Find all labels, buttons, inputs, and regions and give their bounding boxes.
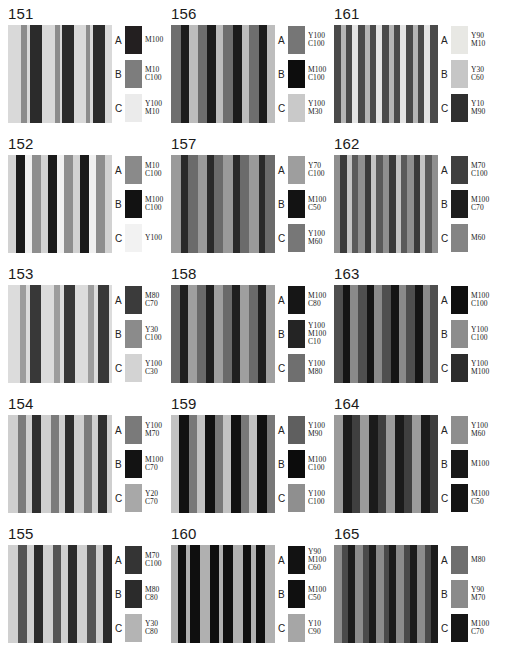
panel: 159AY100 M90BM100 C100CY100 C100 (171, 396, 334, 526)
legend-color-chip (288, 580, 305, 608)
legend: AM80 C70BY30 C100CY100 C30 (115, 285, 169, 383)
legend: AM70 C100BM80 C80CY30 C80 (115, 545, 169, 643)
legend-row: AM100 C100 (441, 285, 498, 315)
legend-color-notation: M60 (471, 234, 498, 242)
panel-number: 160 (171, 526, 332, 543)
legend-color-notation: M10 C100 (145, 162, 169, 178)
legend-row: BM100 C70 (441, 189, 498, 219)
legend-color-notation: M100 C100 (308, 456, 332, 472)
legend-color-notation: Y30 C100 (145, 326, 169, 342)
legend-color-notation: M100 (145, 36, 169, 44)
legend-key-label: A (278, 555, 288, 566)
panel: 153AM80 C70BY30 C100CY100 C30 (8, 266, 171, 396)
legend-color-notation: Y100 M30 (308, 100, 332, 116)
legend: AY100 C100BM100 C100CY100 M30 (278, 25, 332, 123)
legend-row: CY30 C80 (115, 613, 169, 643)
legend-key-label: B (278, 329, 288, 340)
panel-body: AY100 C100BM100 C100CY100 M30 (171, 25, 332, 123)
legend-color-chip (288, 60, 305, 88)
legend-row: BM100 C100 (278, 59, 332, 89)
legend-color-chip (288, 546, 305, 574)
legend-key-label: B (441, 459, 451, 470)
panel-number: 156 (171, 6, 332, 23)
legend-color-chip (288, 320, 305, 348)
legend-color-notation: M100 C70 (471, 620, 498, 636)
legend-row: CY100 M60 (278, 223, 332, 253)
legend-key-label: B (278, 589, 288, 600)
legend: AY90 M10BY30 C60CY10 M90 (441, 25, 498, 123)
legend-color-chip (288, 156, 305, 184)
legend: AY70 C100BM100 C50CY100 M60 (278, 155, 332, 253)
stripe-pattern-swatch (8, 545, 112, 643)
panel-body: AM70 C100BM100 C70CM60 (334, 155, 498, 253)
legend-row: BM100 (441, 449, 498, 479)
legend-color-chip (451, 224, 468, 252)
legend-row: AM80 (441, 545, 498, 575)
legend-row: AY90 M100 C60 (278, 545, 332, 575)
legend-color-chip (125, 60, 142, 88)
panel: 161AY90 M10BY30 C60CY10 M90 (334, 6, 500, 136)
legend-color-notation: Y90 M10 (471, 32, 498, 48)
legend-row: AY90 M10 (441, 25, 498, 55)
legend-key-label: A (278, 35, 288, 46)
legend-key-label: C (278, 233, 288, 244)
legend: AM100 C100BY100 C100CY100 M100 (441, 285, 498, 383)
legend-color-notation: Y100 C30 (145, 360, 169, 376)
legend-key-label: A (115, 35, 125, 46)
legend-color-notation: M70 C100 (145, 552, 169, 568)
chart-sheet: 151AM100BM10 C100CY100 M10156AY100 C100B… (0, 0, 506, 671)
legend: AY100 M60BM100CM100 C50 (441, 415, 498, 513)
panel-body: AY100 M90BM100 C100CY100 C100 (171, 415, 332, 513)
legend-color-chip (451, 156, 468, 184)
legend-color-notation: M100 (471, 460, 498, 468)
panel-number: 153 (8, 266, 169, 283)
legend-color-notation: M100 C100 (145, 196, 169, 212)
panel: 165AM80BY90 M70CM100 C70 (334, 526, 500, 656)
legend-color-chip (288, 354, 305, 382)
legend-key-label: C (441, 363, 451, 374)
legend-color-chip (125, 286, 142, 314)
legend-key-label: A (115, 295, 125, 306)
panel-number: 151 (8, 6, 169, 23)
legend-color-chip (125, 320, 142, 348)
legend-color-notation: M80 C70 (145, 292, 169, 308)
legend-key-label: B (441, 329, 451, 340)
legend-row: BY100 M100 C10 (278, 319, 332, 349)
legend-row: CM60 (441, 223, 498, 253)
panel: 151AM100BM10 C100CY100 M10 (8, 6, 171, 136)
legend-color-notation: M100 C70 (145, 456, 169, 472)
legend-row: CY10 M90 (441, 93, 498, 123)
stripe-pattern-swatch (8, 285, 112, 383)
legend-row: CY10 C90 (278, 613, 332, 643)
legend-color-chip (451, 484, 468, 512)
legend-row: CM100 C50 (441, 483, 498, 513)
legend-key-label: A (441, 165, 451, 176)
panel: 155AM70 C100BM80 C80CY30 C80 (8, 526, 171, 656)
legend-color-chip (451, 190, 468, 218)
legend-row: CY100 (115, 223, 169, 253)
legend-key-label: A (115, 425, 125, 436)
legend-color-notation: Y100 M10 (145, 100, 169, 116)
legend-key-label: B (115, 199, 125, 210)
legend-color-chip (288, 26, 305, 54)
legend-color-notation: M70 C100 (471, 162, 498, 178)
legend: AM100BM10 C100CY100 M10 (115, 25, 169, 123)
stripe-pattern-swatch (171, 285, 275, 383)
legend-color-chip (451, 580, 468, 608)
legend-color-notation: M100 C70 (471, 196, 498, 212)
panel-body: AM80 C70BY30 C100CY100 C30 (8, 285, 169, 383)
legend-key-label: C (441, 623, 451, 634)
legend: AY100 M90BM100 C100CY100 C100 (278, 415, 332, 513)
legend-color-notation: Y100 M90 (308, 422, 332, 438)
legend-row: BM100 C50 (278, 189, 332, 219)
legend-color-chip (451, 354, 468, 382)
legend-row: BY30 C100 (115, 319, 169, 349)
legend-row: CY100 M30 (278, 93, 332, 123)
legend-color-notation: Y90 M100 C60 (308, 548, 332, 573)
panel-body: AM70 C100BM80 C80CY30 C80 (8, 545, 169, 643)
panel: 162AM70 C100BM100 C70CM60 (334, 136, 500, 266)
legend: AM100 C80BY100 M100 C10CY100 M80 (278, 285, 332, 383)
panel-body: AM100BM10 C100CY100 M10 (8, 25, 169, 123)
legend-key-label: A (441, 35, 451, 46)
legend-row: CY20 C70 (115, 483, 169, 513)
